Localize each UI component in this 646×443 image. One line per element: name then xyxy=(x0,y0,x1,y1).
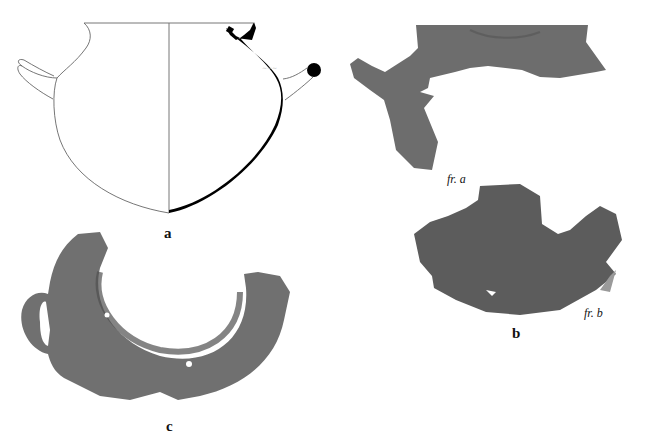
vessel-drawing-a: ~~~ xyxy=(18,22,321,213)
sherd-fragment-b xyxy=(414,184,622,315)
svg-text:~~~: ~~~ xyxy=(262,64,277,71)
sherd-fragment-a xyxy=(350,25,606,170)
figure-canvas: ~~~ xyxy=(0,0,646,443)
fragment-label-fr-a: fr. a xyxy=(447,172,466,187)
fragment-label-fr-b: fr. b xyxy=(584,306,603,321)
panel-label-b: b xyxy=(512,325,520,342)
panel-label-a: a xyxy=(164,225,172,242)
panel-label-c: c xyxy=(166,418,173,435)
rim-fragment-c xyxy=(21,232,290,400)
